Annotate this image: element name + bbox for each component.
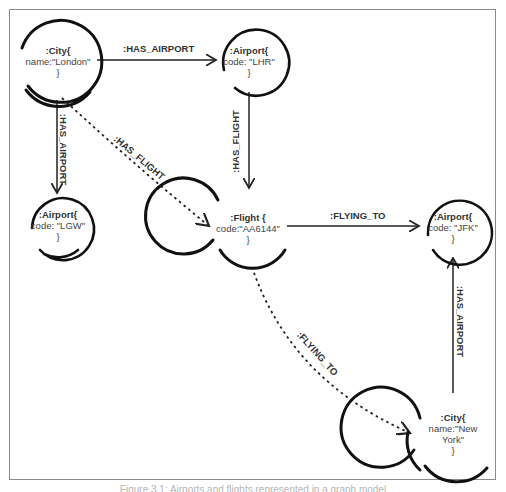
node-type: :Airport{: [39, 209, 78, 220]
node-close: }: [23, 67, 93, 78]
node-london: :City{ name:"London" }: [23, 45, 93, 78]
edge-label-london-lhr: :HAS_AIRPORT: [123, 43, 194, 54]
edge-label-newyork-jfk: :HAS_AIRPORT: [455, 286, 466, 357]
edge-flight-newyork: [252, 267, 410, 433]
node-close: }: [418, 233, 488, 244]
node-jfk: :Airport{ code: "JFK" }: [418, 211, 488, 244]
node-flight: :Flight { code:"AA6144" }: [213, 212, 283, 245]
node-prop: code: "JFK": [418, 222, 488, 233]
edge-label-lhr-flight: :HAS_FLIGHT: [230, 110, 241, 173]
node-prop: code:"AA6144": [213, 223, 283, 234]
node-type: :City{: [441, 412, 466, 423]
node-close: }: [214, 67, 284, 78]
node-close: }: [418, 445, 488, 456]
node-prop-2: York": [418, 434, 488, 445]
node-newyork: :City{ name:"New York" }: [418, 412, 488, 456]
node-prop: code: "LGW": [23, 220, 93, 231]
node-prop: code: "LHR": [214, 56, 284, 67]
edge-label-flight-jfk: :FLYING_TO: [330, 210, 385, 221]
node-type: :Airport{: [434, 211, 473, 222]
node-close: }: [213, 234, 283, 245]
node-type: :Flight {: [230, 212, 265, 223]
node-close: }: [23, 231, 93, 242]
node-lhr: :Airport{ code: "LHR" }: [214, 45, 284, 78]
node-type: :City{: [46, 45, 71, 56]
node-lgw: :Airport{ code: "LGW" }: [23, 209, 93, 242]
node-type: :Airport{: [230, 45, 269, 56]
edge-label-london-lgw: :HAS_AIRPORT: [58, 114, 69, 185]
node-prop: name:"New: [418, 423, 488, 434]
figure-caption: Figure 3.1: Airports and flights represe…: [0, 484, 506, 492]
node-prop: name:"London": [23, 56, 93, 67]
